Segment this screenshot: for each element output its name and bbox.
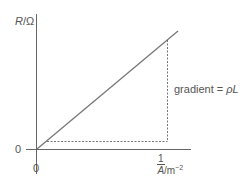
x-axis-unit-exponent: −2	[175, 164, 183, 171]
proportional-line	[37, 31, 178, 149]
x-origin-label: 0	[33, 163, 39, 174]
x-axis-unit: /m−2	[164, 164, 183, 176]
y-axis-symbol: R	[15, 15, 23, 27]
gradient-label: gradient = ρL	[174, 84, 239, 95]
y-origin-label: 0	[15, 144, 21, 155]
x-axis-unit-base: /m	[164, 165, 175, 176]
y-axis-unit: Ω	[26, 15, 34, 27]
y-axis-label: R/Ω	[15, 16, 34, 27]
gradient-label-symbol: ρL	[226, 83, 238, 95]
gradient-label-text: gradient =	[174, 83, 226, 95]
